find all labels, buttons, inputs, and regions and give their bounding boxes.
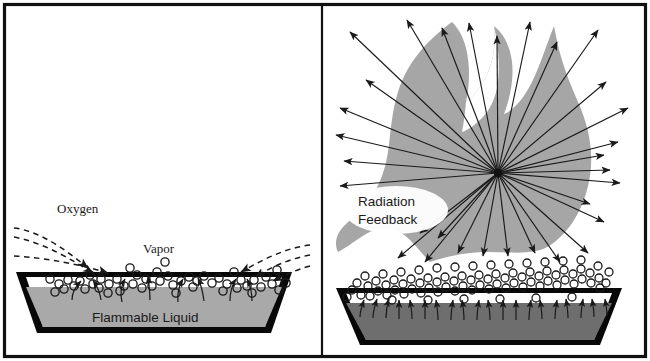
right-pan-liquid: [346, 303, 612, 340]
diagram-canvas: Oxygen Vapor Flammable Liquid: [0, 0, 650, 361]
right-pan: [336, 288, 622, 345]
label-radiation: Radiation: [358, 194, 415, 209]
label-vapor: Vapor: [143, 241, 175, 256]
label-flammable-liquid: Flammable Liquid: [92, 310, 199, 325]
label-feedback: Feedback: [358, 212, 418, 227]
label-oxygen: Oxygen: [57, 201, 99, 216]
radiation-origin: [494, 169, 502, 177]
diagram-figure: Oxygen Vapor Flammable Liquid: [0, 0, 650, 361]
